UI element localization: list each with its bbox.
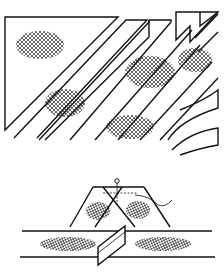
top-panel [5,12,218,155]
bias-strip-illustration [0,0,224,276]
fabric-texture-patch [106,115,154,139]
fabric-texture-patch [125,56,175,88]
fabric-texture-patch [16,31,64,59]
fabric-texture-patch [86,202,110,220]
bottom-panel [20,179,215,265]
fabric-texture-patch [45,89,85,117]
fabric-texture-patch [178,48,212,72]
fabric-texture-patch [40,237,96,251]
fabric-texture-patch [126,201,150,219]
pressed-seam-tab [98,226,125,265]
fabric-texture-patch [135,237,191,251]
